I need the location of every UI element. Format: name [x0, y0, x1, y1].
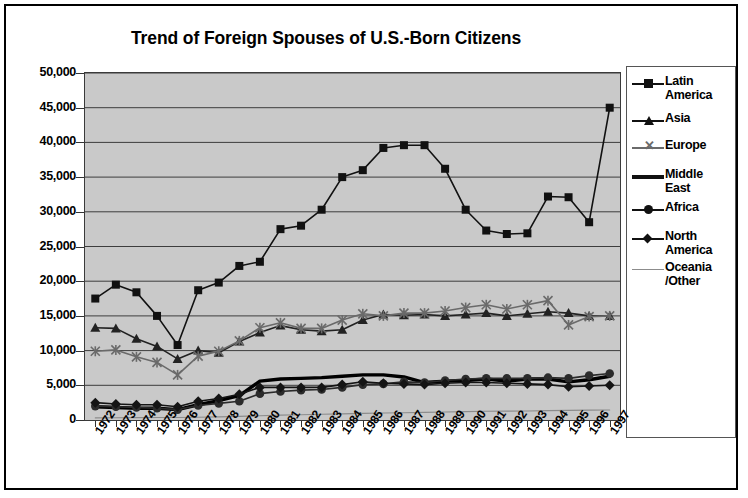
data-point-marker: [606, 104, 614, 112]
data-point-marker: [564, 320, 573, 330]
series-europe: [91, 296, 614, 380]
data-point-marker: [173, 354, 183, 363]
legend-label-line: America: [665, 89, 712, 103]
legend-key-hex-icon: [631, 202, 665, 218]
y-axis-tick-label: 50,000: [8, 65, 76, 79]
y-axis-tick: [76, 281, 84, 282]
data-point-marker: [256, 258, 264, 266]
data-point-marker: [174, 341, 182, 349]
data-point-marker: [132, 288, 140, 296]
data-point-marker: [378, 378, 388, 388]
data-point-marker: [482, 227, 490, 235]
legend-item-northamerica[interactable]: NorthAmerica: [631, 230, 733, 257]
legend-key-diamond-icon: [631, 231, 665, 247]
data-point-marker: [523, 229, 531, 237]
legend-item-middleeast[interactable]: MiddleEast: [631, 168, 733, 195]
data-point-marker: [585, 218, 593, 226]
legend-label-line: Oceania: [665, 261, 712, 275]
series-line: [95, 374, 609, 410]
data-point-marker: [379, 144, 387, 152]
data-point-marker: [91, 295, 99, 303]
y-axis-tick-label: 0: [8, 412, 76, 426]
data-point-marker: [564, 382, 574, 392]
data-point-marker: [565, 193, 573, 201]
legend-label-line: America: [665, 244, 712, 258]
legend-label: LatinAmerica: [665, 75, 712, 102]
y-axis-tick: [76, 316, 84, 317]
legend-label-line: Middle: [665, 168, 703, 182]
data-point-marker: [153, 357, 162, 367]
y-axis-tick-label: 10,000: [8, 343, 76, 357]
legend-item-africa[interactable]: Africa: [631, 201, 733, 218]
data-point-marker: [441, 165, 449, 173]
series-asia: [90, 307, 614, 363]
data-point-marker: [462, 206, 470, 214]
legend-label-line: Latin: [665, 75, 712, 89]
data-point-marker: [605, 369, 614, 378]
y-axis-tick: [76, 212, 84, 213]
y-axis-tick-label: 40,000: [8, 134, 76, 148]
y-axis-tick-label: 15,000: [8, 308, 76, 322]
chart-title: Trend of Foreign Spouses of U.S.-Born Ci…: [6, 28, 646, 49]
y-axis-tick: [76, 73, 84, 74]
data-point-marker: [584, 381, 594, 391]
legend-label: Oceania/Other: [665, 261, 712, 288]
series-line: [95, 312, 609, 359]
y-axis-tick: [76, 351, 84, 352]
y-axis-tick-label: 5,000: [8, 377, 76, 391]
legend-label: NorthAmerica: [665, 230, 712, 257]
chart-frame: Trend of Foreign Spouses of U.S.-Born Ci…: [4, 4, 738, 490]
data-point-marker: [503, 230, 511, 238]
data-point-marker: [400, 141, 408, 149]
series-layer: [85, 73, 620, 420]
legend-label-line: Asia: [665, 112, 690, 126]
legend-item-europe[interactable]: ✕Europe: [631, 139, 733, 156]
legend-key-square-icon: [631, 76, 665, 92]
legend-label: MiddleEast: [665, 168, 703, 195]
data-point-marker: [235, 262, 243, 270]
series-middle-east: [95, 375, 609, 410]
y-axis-tick-label: 25,000: [8, 239, 76, 253]
y-axis-tick-label: 45,000: [8, 100, 76, 114]
legend-item-oceaniaother[interactable]: Oceania/Other: [631, 261, 733, 288]
legend-label-line: /Other: [665, 275, 712, 289]
legend-label: Africa: [665, 201, 699, 215]
data-point-marker: [564, 374, 573, 383]
y-axis-tick: [76, 420, 84, 421]
y-axis-tick: [76, 385, 84, 386]
data-point-marker: [585, 371, 594, 380]
legend-key-triangle-icon: [631, 113, 665, 129]
data-point-marker: [132, 352, 141, 362]
data-point-marker: [544, 193, 552, 201]
legend-key-thinline-icon: [631, 262, 665, 278]
legend-label-line: Europe: [665, 139, 706, 153]
data-point-marker: [359, 166, 367, 174]
y-axis-tick: [76, 247, 84, 248]
data-point-marker: [421, 141, 429, 149]
data-point-marker: [338, 315, 347, 325]
legend-label: Asia: [665, 112, 690, 126]
chart-legend: LatinAmericaAsia✕EuropeMiddleEastAfricaN…: [626, 66, 736, 438]
legend-item-asia[interactable]: Asia: [631, 112, 733, 129]
data-point-marker: [318, 206, 326, 214]
y-axis-tick: [76, 177, 84, 178]
y-axis-tick: [76, 142, 84, 143]
legend-label-line: Africa: [665, 201, 699, 215]
data-point-marker: [131, 334, 141, 343]
data-point-marker: [605, 380, 615, 390]
legend-label-line: North: [665, 230, 712, 244]
legend-item-latinamerica[interactable]: LatinAmerica: [631, 75, 733, 102]
data-point-marker: [153, 312, 161, 320]
legend-key-thickline-icon: [631, 169, 665, 185]
data-point-marker: [338, 173, 346, 181]
series-line: [95, 375, 609, 410]
data-point-marker: [276, 225, 284, 233]
legend-label: Europe: [665, 139, 706, 153]
y-axis-tick: [76, 108, 84, 109]
y-axis-tick-label: 35,000: [8, 169, 76, 183]
data-point-marker: [112, 281, 120, 289]
data-point-marker: [215, 279, 223, 287]
data-point-marker: [297, 222, 305, 230]
legend-label-line: East: [665, 182, 703, 196]
data-point-marker: [194, 286, 202, 294]
